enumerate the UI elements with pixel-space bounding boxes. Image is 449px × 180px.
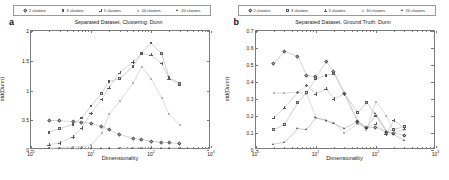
y-axis-title: std(Dunn) [224,77,230,102]
data-point [374,111,378,115]
data-point [71,122,75,126]
legend-entry-10-clusters[interactable]: 10 clusters [136,8,161,13]
x-tick-exponent: 3 [437,150,439,154]
data-point [89,121,93,125]
data-point [282,140,286,144]
legend-label: 20 clusters [181,8,200,13]
data-point [324,73,328,77]
data-point [118,71,122,75]
plot-title: Separated Dataset, Clustering: Dunn [26,19,211,25]
data-point [160,146,164,150]
data-point [47,147,51,151]
data-point [100,97,104,101]
data-point [364,100,368,104]
diamond-marker-icon [24,9,28,13]
legend-entry-20-clusters[interactable]: 20 clusters [176,8,201,13]
data-point [140,146,144,150]
legend: 2 clusters3 clusters5 clusters10 cluster… [13,5,211,16]
x-tick-exponent: 0 [33,150,35,154]
y-tick-label: 0.7 [247,28,254,34]
y-tick-label: 0.4 [247,79,254,85]
legend-entry-10-clusters[interactable]: 10 clusters [361,8,386,13]
data-point [384,114,388,118]
legend-entry-3-clusters[interactable]: 3 clusters [61,8,83,13]
legend-label: 5 clusters [329,8,346,13]
y-axis-title: std(Dunn) [0,77,5,102]
data-point [332,72,336,76]
data-point [402,134,406,138]
data-point [107,86,111,90]
x-tick-exponent: 2 [153,150,155,154]
panel-letter: b [234,18,240,27]
data-point [364,127,368,131]
data-point [178,141,182,145]
data-point [272,61,276,65]
plot-axes: 00.511.52100101102103 [30,30,210,149]
data-point [89,104,93,108]
data-point [355,111,359,115]
plus-marker-icon [99,9,103,13]
data-point [272,91,276,95]
square-marker-icon [61,9,65,13]
data-point [178,83,182,87]
x-tick-mark [436,146,437,148]
legend-label: 10 clusters [366,8,385,13]
data-point [107,80,111,84]
data-point [282,91,286,95]
data-point [131,65,135,69]
y-tick-label: 0.5 [247,62,254,68]
data-point [314,77,318,81]
y-tick-label: 0.1 [247,130,254,136]
data-point [342,127,346,131]
data-point [304,83,308,87]
legend-entry-20-clusters[interactable]: 20 clusters [400,8,425,13]
legend-label: 2 clusters [29,8,46,13]
data-point [140,52,144,56]
data-point [282,106,286,110]
data-point [272,128,276,132]
figure-container: 2 clusters3 clusters5 clusters10 cluster… [0,0,449,180]
data-point [131,146,135,150]
data-point [71,147,75,151]
y-tick-label: 1 [26,88,29,94]
legend-entry-2-clusters[interactable]: 2 clusters [248,8,270,13]
data-point [47,130,51,134]
x-tick-exponent: 3 [213,150,215,154]
y-tick-label: 2 [26,28,29,34]
data-point [131,60,135,64]
legend-entry-5-clusters[interactable]: 5 clusters [323,8,345,13]
square-marker-icon [286,9,290,13]
data-point [314,92,318,96]
data-point [332,97,336,101]
data-point [149,139,153,143]
legend-label: 20 clusters [406,8,425,13]
data-point [402,139,406,143]
data-point [71,135,75,139]
legend-entry-3-clusters[interactable]: 3 clusters [286,8,308,13]
data-point [107,112,111,116]
legend-entry-2-clusters[interactable]: 2 clusters [24,8,46,13]
data-point [131,81,135,85]
data-point [282,123,286,127]
data-point [402,128,406,132]
legend-label: 3 clusters [67,8,84,13]
data-point [89,147,93,151]
data-point [272,142,276,146]
data-point [342,92,346,96]
data-point [58,141,62,145]
data-point [295,55,299,59]
data-point [149,146,153,150]
y-tick-label: 0.3 [247,96,254,102]
legend-entry-5-clusters[interactable]: 5 clusters [99,8,121,13]
data-point [160,52,164,56]
data-point [149,77,153,81]
legend-label: 3 clusters [291,8,308,13]
data-point [374,122,378,126]
data-point [107,147,111,151]
data-point [282,49,286,53]
data-point [140,65,144,69]
data-point [295,127,299,131]
data-point [80,120,84,124]
data-point [355,119,359,123]
data-point [304,73,308,77]
